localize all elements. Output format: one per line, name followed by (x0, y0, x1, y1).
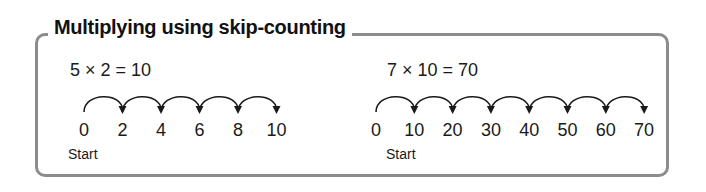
number-line-value: 40 (519, 120, 539, 141)
jump-arrow (453, 97, 491, 112)
start-label-left: Start (68, 146, 98, 162)
jump-arrow (161, 97, 200, 112)
jump-arrow (529, 97, 567, 112)
start-label-right: Start (386, 146, 416, 162)
jump-arrow (238, 97, 277, 112)
arrowhead-icon (273, 106, 281, 114)
number-line-value: 10 (404, 120, 424, 141)
number-line-value: 0 (371, 120, 381, 141)
number-line-value: 70 (634, 120, 654, 141)
jump-arrow (491, 97, 529, 112)
jump-arrow (606, 97, 644, 112)
number-line-value: 10 (266, 120, 286, 141)
number-line-value: 60 (596, 120, 616, 141)
number-line-value: 8 (233, 120, 243, 141)
number-line-value: 0 (79, 120, 89, 141)
skip-count-arcs (0, 0, 706, 192)
number-line-value: 4 (156, 120, 166, 141)
jump-arrow (568, 97, 606, 112)
jump-arrow (200, 97, 239, 112)
number-line-value: 30 (481, 120, 501, 141)
number-line-value: 2 (117, 120, 127, 141)
number-line-value: 20 (443, 120, 463, 141)
arrowhead-icon (640, 106, 648, 114)
jump-arrow (123, 97, 162, 112)
jump-arrow (84, 97, 123, 112)
jump-arrow (376, 97, 414, 112)
number-line-value: 50 (557, 120, 577, 141)
jump-arrow (414, 97, 452, 112)
number-line-value: 6 (194, 120, 204, 141)
